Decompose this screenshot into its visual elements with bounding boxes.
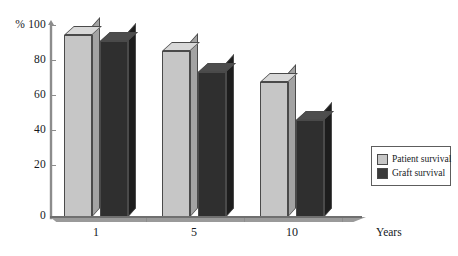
bar-graft-survival-1 [100, 41, 128, 217]
bar-side [190, 33, 198, 217]
y-tick-label-20-wrap: 20 [0, 159, 46, 171]
bar-face [260, 82, 288, 217]
bar-face [296, 120, 324, 217]
legend-swatch-graft-survival [377, 168, 388, 179]
x-tick-1 [146, 218, 147, 222]
y-tick-label-60: 60 [34, 89, 46, 101]
y-tick-80 [52, 60, 56, 61]
bar-graft-survival-10 [296, 120, 324, 217]
y-tick-label-80: 80 [34, 54, 46, 66]
bar-side [324, 102, 332, 217]
legend-item-patient-survival: Patient survival [377, 152, 445, 166]
bar-patient-survival-10 [260, 82, 288, 217]
legend-label-patient-survival: Patient survival [392, 154, 451, 165]
y-tick-label-20: 20 [34, 159, 46, 171]
y-tick-label-0: 0 [40, 210, 46, 222]
bar-side [226, 54, 234, 217]
bar-face [198, 72, 226, 217]
bar-face [162, 51, 190, 217]
x-axis-label-10: 10 [272, 226, 312, 239]
y-tick-label-100-wrap: % 100 [0, 19, 46, 31]
bar-side [92, 17, 100, 217]
y-tick-label-40: 40 [34, 124, 46, 136]
x-axis-label-5: 5 [174, 226, 214, 239]
legend-label-graft-survival: Graft survival [392, 168, 445, 179]
bar-face [64, 35, 92, 217]
y-tick-20 [52, 165, 56, 166]
chart-floor [50, 217, 366, 222]
y-tick-label-60-wrap: 60 [0, 89, 46, 101]
y-tick-40 [52, 130, 56, 131]
y-axis-line [50, 24, 52, 219]
bar-side [288, 64, 296, 217]
x-axis-label-1: 1 [76, 226, 116, 239]
x-axis-title: Years [376, 226, 402, 239]
legend-item-graft-survival: Graft survival [377, 166, 445, 180]
bar-patient-survival-5 [162, 51, 190, 217]
y-tick-100 [52, 25, 56, 26]
bar-side [128, 23, 136, 217]
x-tick-10 [342, 218, 343, 222]
x-axis-line [50, 216, 362, 218]
bar-graft-survival-5 [198, 72, 226, 217]
bar-face [100, 41, 128, 217]
survival-bar-chart: % 100 80 60 40 20 0 [0, 0, 458, 256]
legend-swatch-patient-survival [377, 154, 388, 165]
y-tick-label-40-wrap: 40 [0, 124, 46, 136]
y-tick-label-100: % 100 [15, 19, 46, 31]
y-tick-label-0-wrap: 0 [0, 210, 46, 222]
x-tick-5 [244, 218, 245, 222]
bar-patient-survival-1 [64, 35, 92, 217]
y-tick-60 [52, 95, 56, 96]
chart-legend: Patient survival Graft survival [371, 146, 451, 186]
y-tick-label-80-wrap: 80 [0, 54, 46, 66]
